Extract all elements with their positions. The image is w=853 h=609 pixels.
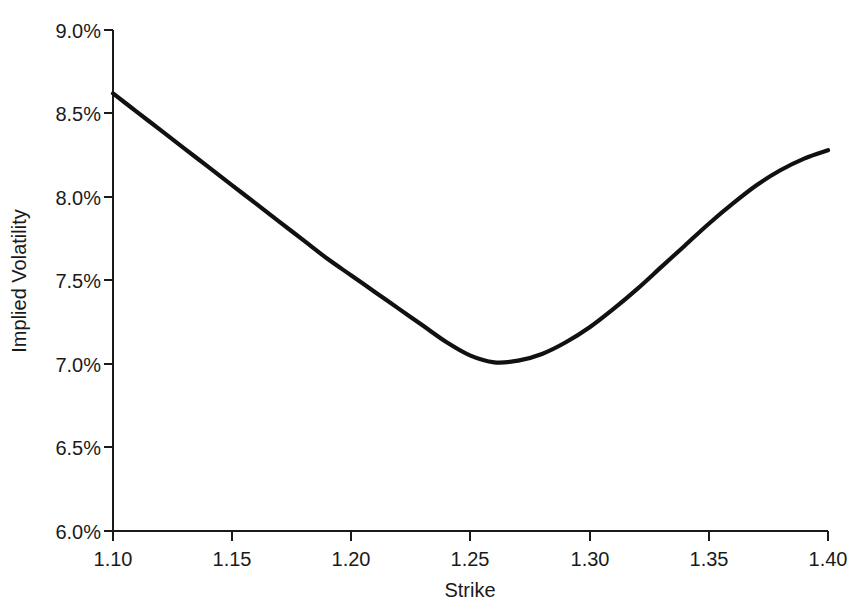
y-tick-label: 7.0% <box>55 354 101 376</box>
x-tick-label: 1.15 <box>213 548 252 570</box>
x-tick-label: 1.10 <box>94 548 133 570</box>
x-tick-label: 1.25 <box>451 548 490 570</box>
implied-volatility-curve <box>113 93 828 362</box>
x-tick-label: 1.35 <box>690 548 729 570</box>
x-tick-label: 1.30 <box>571 548 610 570</box>
y-tick-label: 7.5% <box>55 270 101 292</box>
y-axis-title: Implied Volatility <box>8 209 30 352</box>
y-tick-label: 6.5% <box>55 437 101 459</box>
y-tick-label: 8.5% <box>55 103 101 125</box>
y-tick-label: 8.0% <box>55 187 101 209</box>
x-axis-title: Strike <box>444 579 495 601</box>
volatility-smile-chart: Implied Volatility 9.0% 8.5% 8.0% 7.5% 7… <box>0 0 853 609</box>
x-tick-label: 1.20 <box>332 548 371 570</box>
x-tick-label: 1.40 <box>809 548 848 570</box>
chart-figure: Implied Volatility 9.0% 8.5% 8.0% 7.5% 7… <box>0 0 853 609</box>
y-tick-label: 9.0% <box>55 20 101 42</box>
y-tick-label: 6.0% <box>55 521 101 543</box>
